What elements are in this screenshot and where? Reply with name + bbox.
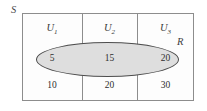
count-out-event-2: 20	[82, 80, 137, 90]
partition-label-2-text: U	[104, 22, 112, 33]
count-in-event-3: 20	[137, 53, 194, 63]
venn-partition-diagram: S R U1 U2 U3 5 15 20 10 20 30	[0, 0, 207, 111]
partition-label-2: U2	[82, 22, 137, 36]
partition-label-3-subscript: 3	[168, 28, 172, 36]
partition-label-1-text: U	[46, 22, 54, 33]
event-label-r: R	[177, 36, 183, 47]
count-out-event-1: 10	[22, 80, 82, 90]
partition-label-3-text: U	[160, 22, 168, 33]
partition-label-1: U1	[22, 22, 82, 36]
sample-space-label: S	[11, 4, 16, 15]
count-in-event-2: 15	[82, 53, 137, 63]
partition-label-3: U3	[137, 22, 194, 36]
partition-label-2-subscript: 2	[112, 28, 116, 36]
count-in-event-1: 5	[22, 53, 82, 63]
partition-label-1-subscript: 1	[54, 28, 58, 36]
count-out-event-3: 30	[137, 80, 194, 90]
